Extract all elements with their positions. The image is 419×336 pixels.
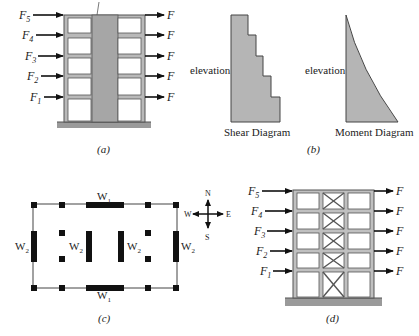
right-force-arrows — [145, 15, 164, 97]
windows-right — [348, 193, 370, 297]
force-label-f4: F4 — [21, 28, 33, 44]
force-label-f3: F3 — [24, 49, 36, 65]
left-force-labels: F5 F4 F3 F2 F1 — [18, 8, 41, 106]
compass-west: W — [184, 210, 192, 219]
shear-diagram — [231, 15, 280, 122]
wall-w2-inner-right — [118, 231, 124, 262]
label-w2-east: W2 — [181, 240, 195, 255]
moment-axis-label: elevation — [305, 64, 346, 76]
wall-w2-west — [31, 231, 37, 262]
caption-b: (b) — [307, 143, 320, 156]
right-force-labels: F F F F F — [166, 8, 175, 104]
force-label-f2: F2 — [255, 244, 267, 260]
panel-b-diagrams: elevation Shear Diagram elevation Moment… — [190, 15, 414, 156]
shear-wall-core — [92, 15, 118, 122]
structural-diagram: F5 F4 F3 F2 F1 F F F F F (a) elevation S… — [0, 0, 419, 336]
moment-diagram-title: Moment Diagram — [335, 126, 414, 138]
wall-w1-top — [86, 202, 124, 208]
caption-d: (d) — [326, 312, 339, 325]
force-label-f5: F5 — [247, 184, 259, 200]
force-label-f1: F1 — [259, 264, 271, 280]
ground — [57, 122, 151, 128]
force-label-f4: F4 — [250, 204, 262, 220]
label-w2-west: W2 — [15, 240, 29, 255]
compass-north: N — [205, 189, 211, 198]
force-label-f: F — [395, 264, 404, 278]
compass-south: S — [205, 233, 209, 242]
force-label-f1: F1 — [29, 90, 41, 106]
force-label-f2: F2 — [26, 69, 38, 85]
force-label-f: F — [395, 224, 404, 238]
compass-east: E — [226, 210, 231, 219]
force-label-f: F — [395, 204, 404, 218]
plan-outline — [33, 204, 177, 288]
right-force-arrows — [374, 191, 393, 271]
label-w1-bottom: W1 — [97, 289, 111, 304]
panel-a-shear-wall-building: F5 F4 F3 F2 F1 F F F F F (a) — [18, 2, 175, 156]
force-label-f: F — [166, 28, 175, 42]
windows-left — [297, 193, 319, 297]
panel-d-braced-frame-building: F5 F4 F3 F2 F1 F F F F F (d) — [247, 184, 404, 325]
force-label-f: F — [395, 184, 404, 198]
force-label-f3: F3 — [253, 224, 265, 240]
wall-w2-east — [173, 231, 179, 262]
left-force-labels: F5 F4 F3 F2 F1 — [247, 184, 271, 280]
braced-core — [323, 193, 344, 297]
ground — [285, 298, 382, 306]
moment-diagram — [346, 15, 398, 122]
shear-axis-label: elevation — [190, 64, 231, 76]
force-label-f: F — [166, 69, 175, 83]
panel-c-floor-plan: W1 W1 W2 W2 W2 W2 N S W E (c) — [15, 189, 231, 325]
caption-c: (c) — [98, 312, 111, 325]
caption-a: (a) — [97, 143, 110, 156]
force-label-f: F — [395, 244, 404, 258]
shear-diagram-title: Shear Diagram — [224, 126, 291, 138]
force-label-f: F — [166, 49, 175, 63]
compass-icon — [193, 200, 223, 228]
force-label-f5: F5 — [18, 8, 30, 24]
force-label-f: F — [166, 8, 175, 22]
right-force-labels: F F F F F — [395, 184, 404, 278]
force-label-f: F — [166, 90, 175, 104]
wall-w2-inner-left — [86, 231, 92, 262]
